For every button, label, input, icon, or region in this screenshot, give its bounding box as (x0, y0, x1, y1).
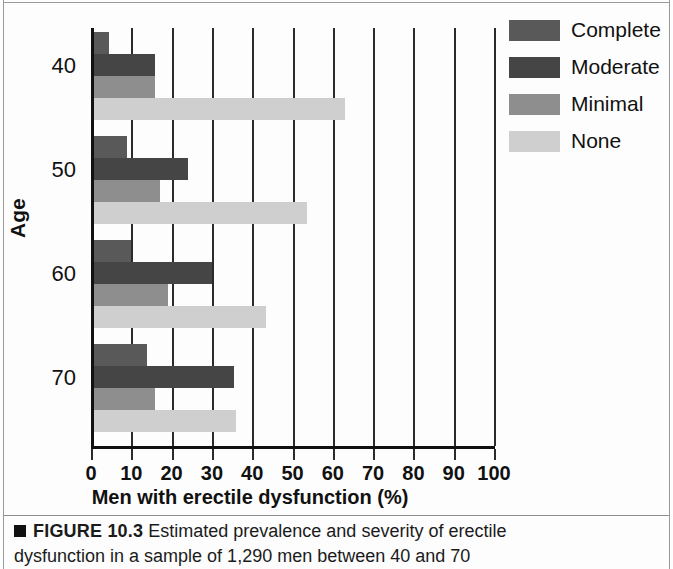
bar-50-complete (91, 136, 127, 158)
y-axis-title: Age (6, 198, 30, 238)
x-tick-label-80: 80 (402, 462, 424, 485)
gridline-60 (333, 28, 335, 446)
x-axis-line (91, 446, 495, 449)
bar-40-none (91, 98, 345, 120)
legend-label-complete: Complete (571, 18, 661, 42)
x-tick-30 (212, 449, 214, 460)
page-border-right (669, 0, 670, 569)
y-tick-label-40: 40 (28, 53, 76, 79)
gridline-50 (293, 28, 295, 446)
x-tick-40 (252, 449, 254, 460)
y-axis-line (91, 28, 94, 448)
gridline-90 (454, 28, 456, 446)
legend-item-complete: Complete (509, 18, 661, 42)
x-tick-20 (172, 449, 174, 460)
gridline-80 (413, 28, 415, 446)
legend-item-moderate: Moderate (509, 55, 661, 79)
bar-70-moderate (91, 366, 234, 388)
legend-label-none: None (571, 129, 621, 153)
x-tick-50 (293, 449, 295, 460)
figure-container: 0102030405060708090100 40506070 Age Men … (0, 0, 673, 569)
bar-60-minimal (91, 284, 168, 306)
gridline-100 (494, 28, 496, 446)
legend-label-minimal: Minimal (571, 92, 643, 116)
legend-label-moderate: Moderate (571, 55, 660, 79)
x-axis-title: Men with erectile dysfunction (%) (0, 486, 500, 509)
bar-70-none (91, 410, 236, 432)
bar-60-complete (91, 240, 131, 262)
x-tick-label-40: 40 (241, 462, 263, 485)
page-border-top (3, 2, 670, 3)
gridline-40 (252, 28, 254, 446)
bar-40-minimal (91, 76, 155, 98)
legend-swatch-none (509, 131, 560, 152)
x-tick-label-100: 100 (477, 462, 510, 485)
bar-60-none (91, 306, 266, 328)
caption-divider (4, 515, 669, 516)
legend-item-minimal: Minimal (509, 92, 661, 116)
caption-figure-number: FIGURE 10.3 (33, 521, 143, 541)
bar-60-moderate (91, 262, 212, 284)
x-tick-label-30: 30 (201, 462, 223, 485)
x-tick-90 (454, 449, 456, 460)
bar-70-complete (91, 344, 147, 366)
bar-50-none (91, 202, 307, 224)
y-tick-label-50: 50 (28, 157, 76, 183)
bar-40-moderate (91, 54, 155, 76)
x-tick-label-0: 0 (85, 462, 96, 485)
x-tick-80 (413, 449, 415, 460)
x-tick-label-10: 10 (120, 462, 142, 485)
y-tick-label-70: 70 (28, 365, 76, 391)
x-tick-60 (333, 449, 335, 460)
x-tick-0 (91, 449, 93, 460)
chart-legend: CompleteModerateMinimalNone (509, 18, 661, 153)
bar-50-moderate (91, 158, 188, 180)
y-tick-label-60: 60 (28, 261, 76, 287)
legend-swatch-minimal (509, 94, 560, 115)
bar-50-minimal (91, 180, 160, 202)
legend-swatch-moderate (509, 57, 560, 78)
x-tick-label-70: 70 (362, 462, 384, 485)
caption-square-icon (14, 525, 26, 537)
caption-line-2: dysfunction in a sample of 1,290 men bet… (14, 544, 664, 569)
x-tick-10 (131, 449, 133, 460)
caption-line-1: Estimated prevalence and severity of ere… (143, 521, 506, 541)
x-tick-label-20: 20 (160, 462, 182, 485)
legend-swatch-complete (509, 20, 560, 41)
figure-caption: FIGURE 10.3 Estimated prevalence and sev… (14, 519, 664, 569)
legend-item-none: None (509, 129, 661, 153)
x-tick-label-90: 90 (443, 462, 465, 485)
x-tick-label-50: 50 (281, 462, 303, 485)
x-tick-label-60: 60 (322, 462, 344, 485)
bar-70-minimal (91, 388, 155, 410)
page-border-left (3, 0, 4, 569)
x-tick-100 (494, 449, 496, 460)
x-tick-70 (373, 449, 375, 460)
gridline-70 (373, 28, 375, 446)
